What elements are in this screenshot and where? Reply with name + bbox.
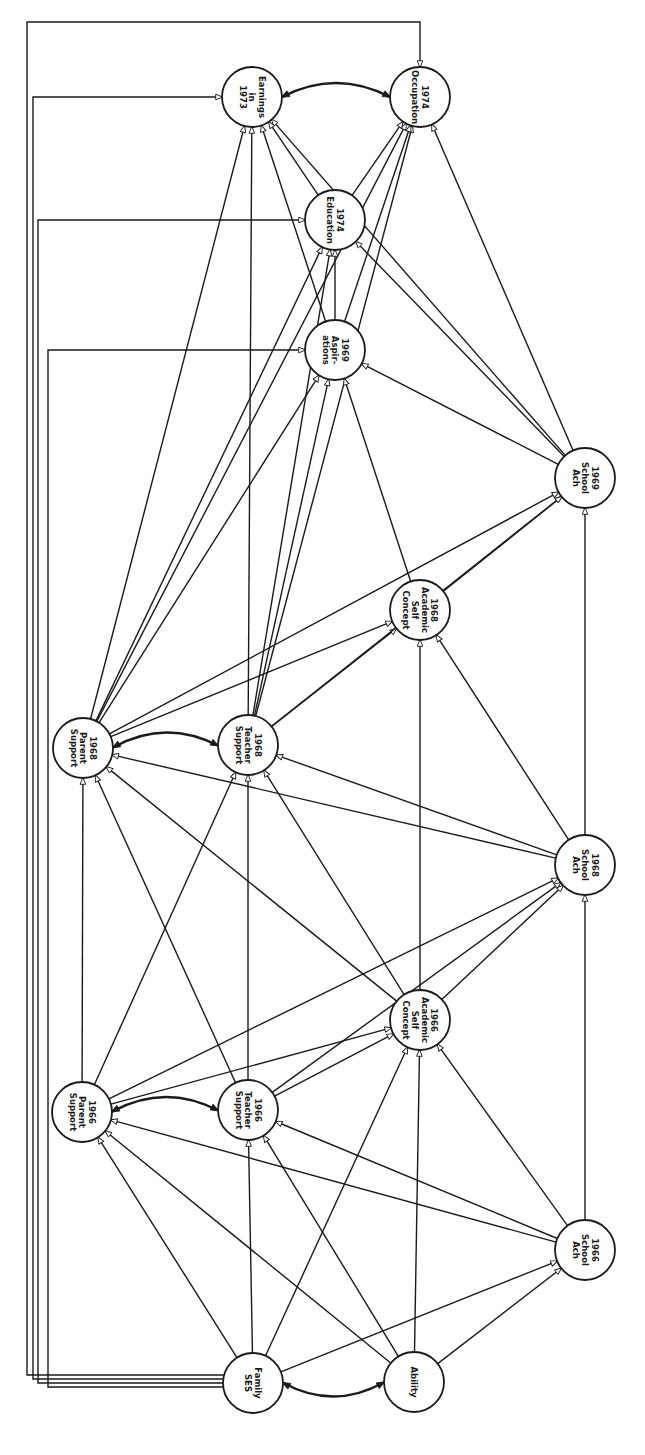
node-ability: Ability bbox=[384, 1352, 444, 1412]
node-ses: FamilySES bbox=[223, 1353, 283, 1413]
path-arrow bbox=[249, 1140, 253, 1353]
bracket-path-arrow bbox=[38, 220, 305, 1383]
path-arrow bbox=[264, 770, 404, 994]
node-edu74: 1974Education bbox=[305, 190, 365, 250]
node-ps68: 1968ParentSupport bbox=[53, 718, 113, 778]
path-arrow bbox=[276, 755, 556, 855]
correlation-arc bbox=[283, 1382, 384, 1396]
node-ts68: 1968TeacherSupport bbox=[218, 715, 278, 775]
path-arrow bbox=[111, 1120, 556, 1242]
path-arrow bbox=[254, 379, 328, 715]
correlation-arc bbox=[282, 83, 390, 97]
path-arrow bbox=[264, 1136, 399, 1357]
path-arrow bbox=[98, 1137, 237, 1357]
nodes-layer: FamilySESAbility1966ParentSupport1966Tea… bbox=[52, 67, 615, 1413]
path-arrow bbox=[105, 1131, 390, 1363]
path-arrow bbox=[356, 242, 564, 457]
path-arrow bbox=[344, 379, 410, 582]
node-earn73: Earningsin1973 bbox=[222, 67, 282, 127]
path-arrow bbox=[352, 122, 403, 196]
path-arrow bbox=[438, 1268, 562, 1363]
path-arrow bbox=[269, 122, 318, 195]
path-arrow bbox=[96, 247, 322, 721]
path-arrow bbox=[437, 1044, 567, 1225]
path-arrow bbox=[248, 127, 252, 715]
node-sa66: 1966SchoolAch bbox=[555, 1220, 615, 1280]
node-label: Ability bbox=[409, 1366, 419, 1397]
node-occ74: 1974Occupation bbox=[390, 67, 450, 127]
node-ts66: 1966TeacherSupport bbox=[218, 1080, 278, 1140]
path-arrow bbox=[253, 250, 330, 716]
path-arrow bbox=[272, 883, 560, 1093]
correlation-arc bbox=[113, 732, 218, 747]
path-diagram: FamilySESAbility1966ParentSupport1966Tea… bbox=[0, 0, 645, 1455]
node-asc66: 1966AcademicSelfConcept bbox=[390, 990, 450, 1050]
path-arrow bbox=[82, 778, 83, 1082]
path-arrow bbox=[112, 755, 556, 858]
path-arrow bbox=[436, 635, 568, 840]
path-arrow bbox=[109, 492, 558, 734]
node-sa68: 1968SchoolAch bbox=[555, 835, 615, 895]
path-arrow bbox=[432, 125, 573, 451]
node-asp69: 1969Aspir-ations bbox=[305, 320, 365, 380]
node-asc68: 1968AcademicSelfConcept bbox=[390, 580, 450, 640]
path-arrow bbox=[414, 1050, 419, 1352]
node-ps66: 1966ParentSupport bbox=[52, 1082, 112, 1142]
path-arrow bbox=[91, 126, 245, 719]
node-sa69: 1969SchoolAch bbox=[555, 448, 615, 508]
bracket-path-arrow bbox=[48, 350, 305, 1387]
node-label: 1969Aspir-ations bbox=[321, 335, 350, 365]
path-arrow bbox=[442, 886, 563, 1000]
path-arrow bbox=[266, 1047, 408, 1355]
path-arrow bbox=[272, 120, 566, 456]
path-arrow bbox=[106, 767, 396, 1001]
path-arrow bbox=[99, 375, 319, 722]
